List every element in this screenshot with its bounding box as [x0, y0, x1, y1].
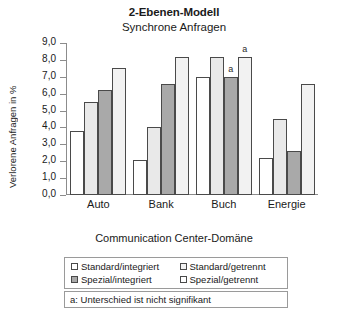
- bar: [70, 131, 84, 195]
- y-axis-tick: 2,0: [60, 161, 66, 162]
- bar-group: [133, 43, 189, 195]
- legend-label: Spezial/getrennt: [190, 274, 259, 285]
- y-axis-tick: 1,0: [60, 178, 66, 179]
- footnote: a: Unterschied ist nicht signifikant: [64, 291, 288, 308]
- bar: [147, 127, 161, 195]
- bar: [273, 119, 287, 195]
- bar-group: [259, 43, 315, 195]
- y-axis-tick: 6,0: [60, 94, 66, 95]
- y-axis-tick-label: 9,0: [42, 36, 56, 47]
- x-axis-tick-label: Buch: [193, 198, 255, 210]
- bar: [259, 158, 273, 195]
- chart-title: 2-Ebenen-Modell: [0, 5, 348, 19]
- bar: [133, 160, 147, 195]
- y-axis-tick: 7,0: [60, 77, 66, 78]
- x-axis-tick-label: Bank: [130, 198, 192, 210]
- y-axis-tick-label: 5,0: [42, 104, 56, 115]
- legend: Standard/integriertStandard/getrenntSpez…: [64, 257, 288, 289]
- legend-label: Spezial/integriert: [81, 274, 152, 285]
- legend-label: Standard/getrennt: [190, 261, 266, 272]
- y-axis-tick-label: 4,0: [42, 120, 56, 131]
- bar: [287, 151, 301, 195]
- bar-annotation: a: [242, 44, 247, 54]
- y-axis-tick-label: 7,0: [42, 70, 56, 81]
- bar: [301, 84, 315, 195]
- axes: 0,01,02,03,04,05,06,07,08,09,0 aa: [66, 43, 318, 195]
- y-axis-tick: 4,0: [60, 127, 66, 128]
- bar-groups: aa: [67, 43, 318, 195]
- legend-item: Standard/integriert: [71, 261, 174, 272]
- bar: [112, 68, 126, 195]
- legend-item: Standard/getrennt: [180, 261, 283, 272]
- plot-area: Verlorene Anfragen in % 0,01,02,03,04,05…: [0, 35, 348, 210]
- legend-item: Spezial/getrennt: [180, 274, 283, 285]
- x-axis-tick-labels: AutoBankBuchEnergie: [67, 198, 318, 210]
- legend-swatch: [180, 263, 187, 270]
- legend-swatch: [71, 276, 78, 283]
- y-axis-tick: 8,0: [60, 60, 66, 61]
- bar: a: [238, 57, 252, 195]
- bar: [98, 90, 112, 195]
- y-axis-tick: 0,0: [60, 195, 66, 196]
- y-axis-tick: 5,0: [60, 111, 66, 112]
- chart-header: 2-Ebenen-Modell Synchrone Anfragen: [0, 0, 348, 35]
- legend-swatch: [71, 263, 78, 270]
- bar: [196, 77, 210, 195]
- legend-label: Standard/integriert: [81, 261, 159, 272]
- bar-group: aa: [196, 43, 252, 195]
- bar: [161, 84, 175, 195]
- y-axis-title: Verlorene Anfragen in %: [6, 77, 20, 197]
- y-axis-tick-label: 2,0: [42, 154, 56, 165]
- y-axis-tick-label: 0,0: [42, 188, 56, 199]
- legend-item: Spezial/integriert: [71, 274, 174, 285]
- y-axis-tick: 9,0: [60, 43, 66, 44]
- y-axis-tick-label: 1,0: [42, 171, 56, 182]
- bar: a: [224, 77, 238, 195]
- chart-subtitle: Synchrone Anfragen: [0, 20, 348, 35]
- bar: [175, 57, 189, 195]
- y-axis-tick-label: 8,0: [42, 53, 56, 64]
- x-axis-tick-label: Auto: [67, 198, 129, 210]
- x-axis-title: Communication Center-Domäne: [0, 232, 348, 244]
- legend-swatch: [180, 276, 187, 283]
- x-axis-tick-label: Energie: [256, 198, 318, 210]
- y-axis-tick-label: 3,0: [42, 137, 56, 148]
- bar-annotation: a: [228, 64, 233, 74]
- bar: [84, 102, 98, 195]
- y-axis-tick-label: 6,0: [42, 87, 56, 98]
- bar: [210, 57, 224, 195]
- y-axis-tick: 3,0: [60, 144, 66, 145]
- bar-group: [70, 43, 126, 195]
